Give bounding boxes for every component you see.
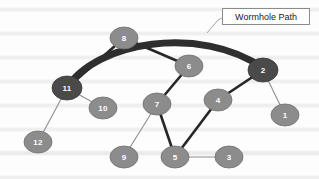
wormhole-path-arc bbox=[67, 43, 263, 88]
node-4[interactable] bbox=[204, 89, 232, 111]
node-9[interactable] bbox=[110, 146, 138, 168]
node-1[interactable] bbox=[271, 104, 299, 126]
nodes-group bbox=[24, 27, 299, 168]
graph-canvas bbox=[0, 0, 319, 179]
node-8[interactable] bbox=[110, 27, 138, 49]
node-3[interactable] bbox=[215, 146, 243, 168]
wormhole-path-callout-label: Wormhole Path bbox=[235, 12, 297, 22]
wormhole-graph-figure: 1 2 3 4 5 6 7 8 9 10 11 12 Wormhole Path bbox=[0, 0, 319, 179]
node-2[interactable] bbox=[248, 58, 278, 82]
node-11[interactable] bbox=[52, 76, 82, 100]
node-5[interactable] bbox=[161, 146, 189, 168]
node-10[interactable] bbox=[89, 97, 117, 119]
node-7[interactable] bbox=[143, 93, 171, 115]
node-6[interactable] bbox=[175, 55, 203, 77]
wormhole-path-callout-box: Wormhole Path bbox=[222, 8, 310, 25]
node-12[interactable] bbox=[24, 131, 52, 153]
